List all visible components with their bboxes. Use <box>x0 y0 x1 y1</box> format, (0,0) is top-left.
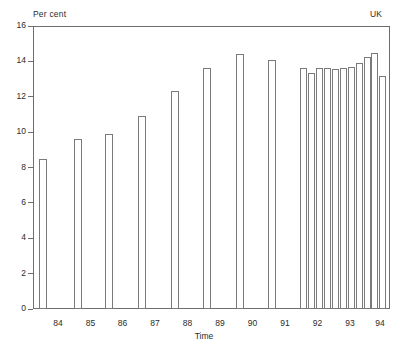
y-tick-label: 0 <box>21 303 26 314</box>
bar-93q2 <box>340 68 347 309</box>
bar-93q3 <box>348 67 355 309</box>
x-tick-label: 88 <box>176 318 200 328</box>
x-tick-label: 84 <box>46 318 70 328</box>
bar-92q4 <box>324 68 331 309</box>
y-tick-mark <box>28 167 33 168</box>
y-tick-mark <box>28 238 33 239</box>
y-tick-label: 10 <box>17 126 26 137</box>
y-tick-mark <box>28 309 33 310</box>
x-tick-label: 85 <box>79 318 103 328</box>
bar-94q2 <box>371 53 378 309</box>
y-tick-label: 12 <box>17 91 26 102</box>
y-tick-label: 6 <box>21 197 26 208</box>
x-tick-label: 91 <box>273 318 297 328</box>
bar-90 <box>236 54 244 309</box>
bar-94q1 <box>364 57 371 309</box>
bar-92q2 <box>308 73 315 309</box>
bar-92q1 <box>300 68 307 309</box>
y-tick-label: 4 <box>21 232 26 243</box>
bar-84 <box>39 159 47 309</box>
y-tick-mark <box>28 26 33 27</box>
x-axis-title: Time <box>0 331 408 341</box>
x-tick-label: 87 <box>143 318 167 328</box>
x-tick-label: 90 <box>241 318 265 328</box>
y-tick-mark <box>28 273 33 274</box>
x-tick-label: 92 <box>306 318 330 328</box>
bar-87 <box>138 116 146 309</box>
bar-93q1 <box>332 69 339 309</box>
y-tick-label: 14 <box>17 55 26 66</box>
y-tick-label: 8 <box>21 162 26 173</box>
y-axis-title: Per cent <box>33 9 66 19</box>
y-tick-label: 2 <box>21 268 26 279</box>
y-tick-mark <box>28 202 33 203</box>
x-tick-label: 94 <box>368 318 392 328</box>
y-tick-mark <box>28 132 33 133</box>
x-tick-label: 86 <box>111 318 135 328</box>
bar-chart: Per cent UK 0246810121416 84858687888990… <box>0 0 408 350</box>
bar-94q3 <box>379 76 386 309</box>
x-tick-label: 89 <box>208 318 232 328</box>
bar-93q4 <box>356 63 363 309</box>
bar-88 <box>171 91 179 309</box>
bar-92q3 <box>316 68 323 309</box>
y-tick-mark <box>28 61 33 62</box>
bar-86 <box>105 134 113 309</box>
bar-91 <box>268 60 276 309</box>
region-label: UK <box>370 9 382 19</box>
x-tick-label: 93 <box>338 318 362 328</box>
bar-89 <box>203 68 211 309</box>
y-tick-label: 16 <box>17 20 26 31</box>
bar-85 <box>74 139 82 309</box>
y-tick-mark <box>28 96 33 97</box>
